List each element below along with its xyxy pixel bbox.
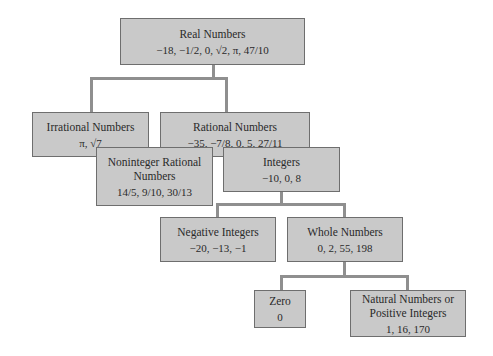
node-title: Integers — [263, 155, 300, 169]
node-zero: Zero 0 — [254, 290, 306, 328]
node-integers: Integers −10, 0, 8 — [223, 147, 340, 192]
node-title-line2: Numbers — [133, 169, 175, 183]
node-title-line1: Noninteger Rational — [108, 155, 202, 169]
node-examples: 0, 2, 55, 198 — [318, 241, 373, 255]
connector-integers-bar — [216, 203, 346, 206]
node-title: Zero — [269, 294, 291, 308]
connector-negative-drop — [216, 203, 219, 217]
node-title: Rational Numbers — [193, 120, 277, 134]
node-examples: −18, −1/2, 0, √2, π, 47/10 — [156, 43, 269, 57]
connector-natural-drop — [406, 275, 409, 290]
connector-whole-stem — [343, 262, 346, 276]
node-examples: 0 — [277, 310, 283, 324]
node-natural-numbers: Natural Numbers or Positive Integers 1, … — [350, 290, 466, 337]
node-examples: −10, 0, 8 — [262, 171, 301, 185]
node-negative-integers: Negative Integers −20, −13, −1 — [160, 217, 276, 262]
connector-irrational-drop — [90, 77, 93, 112]
connector-zero-drop — [280, 275, 283, 290]
node-title-line1: Natural Numbers or — [362, 292, 454, 306]
node-noninteger-rational-numbers: Noninteger Rational Numbers 14/5, 9/10, … — [96, 147, 213, 206]
node-title: Negative Integers — [177, 225, 258, 239]
node-title-line2: Positive Integers — [370, 306, 447, 320]
connector-whole-drop — [343, 203, 346, 217]
node-examples: −20, −13, −1 — [189, 241, 246, 255]
connector-real-bar — [90, 77, 227, 80]
node-whole-numbers: Whole Numbers 0, 2, 55, 198 — [287, 217, 403, 262]
node-title: Whole Numbers — [307, 225, 383, 239]
connector-rational-drop — [225, 77, 228, 112]
connector-whole-bar — [280, 275, 408, 278]
node-title: Real Numbers — [179, 27, 245, 41]
node-title: Irrational Numbers — [47, 120, 135, 134]
node-examples: 1, 16, 170 — [386, 322, 430, 336]
node-real-numbers: Real Numbers −18, −1/2, 0, √2, π, 47/10 — [120, 18, 305, 65]
node-examples: 14/5, 9/10, 30/13 — [117, 185, 192, 199]
